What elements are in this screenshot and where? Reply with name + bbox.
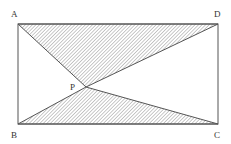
label-b: B (11, 130, 17, 140)
label-a: A (11, 9, 18, 19)
label-p: P (70, 82, 75, 92)
triangle-apd-shaded (18, 24, 218, 87)
label-c: C (214, 130, 220, 140)
triangle-bpc-shaded (18, 87, 218, 124)
label-d: D (214, 9, 221, 19)
geometry-diagram: A D B C P (0, 0, 231, 144)
